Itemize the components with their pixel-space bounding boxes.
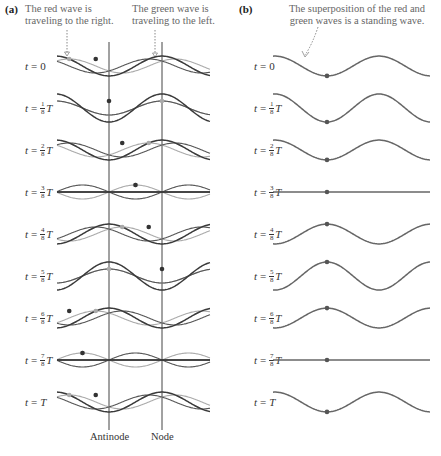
- red-wave-marker-dot: [120, 141, 125, 146]
- red-wave-pointer-arrow-head: [65, 52, 70, 56]
- red-wave-marker-dot: [133, 183, 138, 188]
- standing-wave: [273, 56, 430, 76]
- antinode-label: Antinode: [90, 431, 129, 442]
- wave-diagram: [0, 0, 441, 456]
- standing-wave-antinode-dot: [325, 74, 330, 79]
- green-wave-marker-dot: [67, 57, 72, 62]
- standing-wave: [273, 94, 430, 122]
- green-wave-marker-dot: [107, 267, 112, 272]
- node-label: Node: [151, 431, 174, 442]
- standing-wave-pointer-arrow: [305, 27, 318, 55]
- standing-wave-antinode-dot: [325, 158, 330, 163]
- standing-wave: [273, 308, 430, 328]
- green-wave-marker-dot: [160, 99, 165, 104]
- standing-wave-antinode-dot: [325, 222, 330, 227]
- standing-wave: [273, 140, 430, 160]
- standing-wave: [273, 392, 430, 412]
- standing-wave-antinode-dot: [325, 120, 330, 125]
- green-traveling-wave: [57, 101, 210, 115]
- standing-wave: [273, 262, 430, 290]
- red-wave-marker-dot: [146, 225, 151, 230]
- standing-wave-pointer-arrow-head: [302, 51, 309, 57]
- green-wave-marker-dot: [120, 225, 125, 230]
- red-wave-marker-dot: [93, 393, 98, 398]
- red-wave-marker-dot: [67, 309, 72, 314]
- standing-wave-antinode-dot: [325, 358, 330, 363]
- red-wave-marker-dot: [160, 267, 165, 272]
- superposition-wave: [57, 94, 210, 122]
- standing-wave-antinode-dot: [325, 410, 330, 415]
- standing-wave-antinode-dot: [325, 190, 330, 195]
- green-wave-marker-dot: [67, 393, 72, 398]
- superposition-wave: [57, 56, 210, 76]
- superposition-wave: [57, 140, 210, 160]
- red-wave-marker-dot: [93, 57, 98, 62]
- green-wave-marker-dot: [93, 309, 98, 314]
- superposition-wave: [57, 224, 210, 244]
- red-wave-marker-dot: [107, 99, 112, 104]
- red-traveling-wave: [57, 101, 210, 115]
- red-traveling-wave: [57, 269, 210, 283]
- superposition-wave: [57, 262, 210, 290]
- standing-wave: [273, 224, 430, 244]
- green-traveling-wave: [57, 269, 210, 283]
- standing-wave-antinode-dot: [325, 260, 330, 265]
- green-wave-marker-dot: [146, 141, 151, 146]
- superposition-wave: [57, 392, 210, 412]
- superposition-wave: [57, 308, 210, 328]
- red-wave-marker-dot: [80, 351, 85, 356]
- standing-wave-antinode-dot: [325, 306, 330, 311]
